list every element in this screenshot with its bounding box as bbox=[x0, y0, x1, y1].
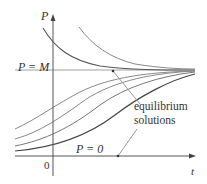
logistic-diagram: P P = M P = 0 0 t equilibrium solutions bbox=[0, 0, 207, 184]
curve-below-4 bbox=[15, 74, 195, 151]
p-axis-label: P bbox=[41, 10, 48, 22]
annotation-equilibrium: equilibrium bbox=[134, 101, 188, 113]
pointer-line-lower bbox=[118, 129, 137, 156]
origin-label: 0 bbox=[44, 160, 50, 171]
equilibrium-m-label: P = M bbox=[18, 61, 49, 73]
diagram-graphics bbox=[0, 0, 207, 184]
pointer-dot-upper bbox=[112, 70, 115, 73]
equilibrium-zero-label: P = 0 bbox=[76, 143, 103, 155]
curve-above-2 bbox=[79, 27, 195, 69]
p-axis-arrow-icon bbox=[51, 14, 56, 21]
annotation-solutions: solutions bbox=[134, 115, 176, 127]
t-axis-arrow-icon bbox=[189, 154, 196, 159]
curve-above-1 bbox=[43, 28, 195, 70]
t-axis-label: t bbox=[191, 166, 194, 177]
pointer-dot-lower bbox=[117, 155, 120, 158]
